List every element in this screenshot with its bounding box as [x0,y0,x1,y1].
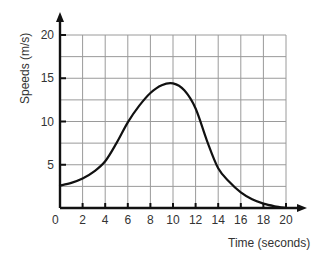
x-tick-labels: 02468101214161820 [52,203,293,227]
x-tick-label: 6 [124,213,131,227]
y-tick-label: 5 [47,158,54,172]
y-axis-label: Speeds (m/s) [18,33,32,104]
y-tick-label: 10 [41,115,55,129]
y-tick-label: 20 [41,28,55,42]
x-tick-label: 16 [234,213,248,227]
grid [60,35,286,208]
y-tick-label: 15 [41,71,55,85]
y-axis-arrow-icon [56,12,64,22]
x-tick-label: 18 [257,213,271,227]
x-tick-label: 20 [279,213,293,227]
axes [56,12,307,212]
x-axis-arrow-icon [297,204,307,212]
x-axis-label: Time (seconds) [228,236,310,250]
x-tick-label: 12 [189,213,203,227]
speed-time-chart: 02468101214161820 5101520 Time (seconds)… [0,0,313,260]
x-tick-label: 14 [212,213,226,227]
x-tick-label: 8 [147,213,154,227]
x-tick-label: 4 [102,213,109,227]
x-tick-label: 10 [166,213,180,227]
x-tick-label: 0 [52,213,59,227]
x-tick-label: 2 [79,213,86,227]
